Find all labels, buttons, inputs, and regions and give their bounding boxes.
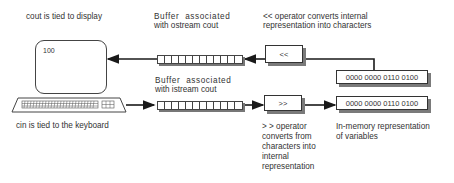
memory-label-1: In-memory representation — [336, 122, 430, 131]
cin-keyboard-label: cin is tied to the keyboard — [16, 121, 109, 130]
ostream-buffer — [157, 55, 243, 64]
output-operator-label-1: << operator converts internal — [263, 12, 368, 21]
output-operator-box: << — [265, 45, 303, 63]
memory-box-top: 0000 0000 0110 0100 — [336, 70, 428, 84]
memory-box-bottom: 0000 0000 0110 0100 — [336, 96, 428, 110]
keyboard-icon — [12, 98, 126, 112]
istream-buffer — [157, 101, 243, 110]
input-operator-label-1: > > operator — [262, 122, 307, 131]
input-operator-label-5: representation — [262, 162, 314, 171]
istream-buffer-label-1: Buffer associated — [155, 76, 231, 85]
ostream-buffer-label-2: with ostream cout — [154, 21, 218, 30]
display-value: 100 — [43, 47, 55, 54]
istream-buffer-label-2: with istream cout — [155, 85, 216, 94]
input-operator-label-3: characters into — [262, 142, 316, 151]
ostream-buffer-label-1: Buffer associated — [154, 12, 230, 21]
input-operator-label-4: internal — [262, 152, 289, 161]
cout-display-label: cout is tied to display — [26, 12, 102, 21]
input-operator-label-2: converts from — [262, 132, 312, 141]
memory-label-2: of variables — [336, 132, 378, 141]
monitor-icon: 100 — [35, 40, 107, 94]
input-operator-box: >> — [264, 95, 302, 111]
output-operator-label-2: representation into characters — [263, 21, 371, 30]
